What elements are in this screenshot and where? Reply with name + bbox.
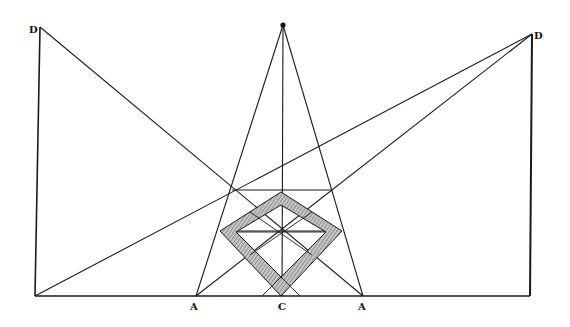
- label-a-left: A: [189, 301, 198, 312]
- label-a-right: A: [357, 301, 366, 312]
- label-d-left: D: [29, 24, 38, 35]
- perspective-diagram: D D A C A: [0, 0, 570, 327]
- orthogonal-a-left: [196, 25, 283, 296]
- right-vertical: [530, 34, 532, 296]
- label-c: C: [278, 301, 286, 312]
- left-vertical: [35, 27, 40, 296]
- orthogonal-a-right: [283, 25, 363, 296]
- hatched-diamond: [220, 192, 342, 296]
- vanishing-point-dot: [280, 22, 285, 27]
- orthogonal-c: [282, 25, 283, 296]
- label-d-right: D: [534, 30, 543, 41]
- diagonal-right-d-to-corner: [35, 34, 532, 296]
